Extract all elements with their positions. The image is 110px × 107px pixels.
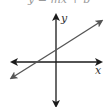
plotted-line-lower bbox=[13, 50, 56, 77]
coordinate-graph: y = mx + b y x bbox=[0, 0, 110, 107]
y-axis-label: y bbox=[60, 12, 68, 25]
x-axis-label: x bbox=[95, 64, 102, 77]
plotted-line bbox=[56, 22, 100, 50]
equation-title: y = mx + b bbox=[27, 0, 90, 6]
